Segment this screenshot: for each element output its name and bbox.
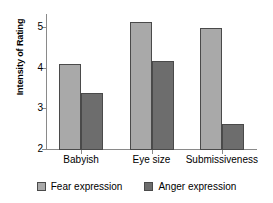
y-axis-title: Intensity of Rating xyxy=(15,0,25,122)
bar xyxy=(59,64,81,150)
bar xyxy=(222,124,244,150)
legend-label: Fear expression xyxy=(51,181,123,192)
bar xyxy=(200,28,222,150)
chart-legend: Fear expressionAnger expression xyxy=(0,181,273,192)
plot-area: 2345 xyxy=(46,14,257,150)
bar xyxy=(152,61,174,150)
legend-swatch-icon xyxy=(144,182,153,191)
legend-label: Anger expression xyxy=(158,181,236,192)
y-tick-label: 4 xyxy=(37,62,43,73)
y-tick-label: 2 xyxy=(37,143,43,154)
y-tick-label: 5 xyxy=(37,21,43,32)
legend-swatch-icon xyxy=(37,182,46,191)
y-tick-label: 3 xyxy=(37,102,43,113)
legend-item: Anger expression xyxy=(144,181,236,192)
bar xyxy=(130,22,152,150)
bar-chart: Intensity of Rating 2345 BabyishEye size… xyxy=(0,0,273,203)
x-axis-label-submissiveness: Submissiveness xyxy=(172,154,272,166)
bars-layer xyxy=(46,14,257,150)
bar xyxy=(81,93,103,150)
legend-item: Fear expression xyxy=(37,181,123,192)
